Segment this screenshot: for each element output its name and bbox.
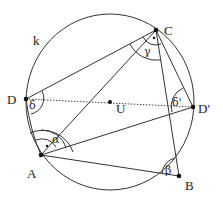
point-u xyxy=(108,100,112,104)
segment-cd xyxy=(26,30,156,99)
label-k: k xyxy=(33,33,40,48)
point-a xyxy=(39,153,44,158)
label-gamma: γ xyxy=(144,45,151,58)
point-b xyxy=(177,174,182,179)
point-c xyxy=(154,28,159,33)
label-b: B xyxy=(185,178,194,193)
label-d-prime: D' xyxy=(198,101,210,116)
label-u: U xyxy=(116,101,126,116)
label-alpha: α xyxy=(52,133,60,146)
diagram-canvas: k A B C D D' U α β γ δ δ' xyxy=(0,0,223,202)
label-beta: β xyxy=(165,164,171,177)
label-delta-prime: δ' xyxy=(172,96,182,109)
right-angle-dot-c xyxy=(153,37,155,39)
right-angle-dot-a xyxy=(46,145,48,147)
label-c: C xyxy=(164,23,173,38)
segment-ab xyxy=(41,155,179,176)
point-d-prime xyxy=(191,105,196,110)
label-delta: δ xyxy=(29,99,36,112)
point-d xyxy=(24,97,29,102)
label-d: D xyxy=(7,92,16,107)
label-a: A xyxy=(27,166,37,181)
